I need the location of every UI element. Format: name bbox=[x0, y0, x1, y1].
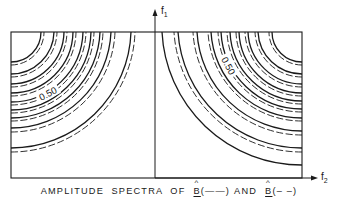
left-contours bbox=[11, 32, 135, 152]
solid-line-legend: (——) bbox=[201, 186, 230, 196]
dashed-line-legend: (– –) bbox=[272, 186, 297, 196]
f1-arrowhead-icon bbox=[153, 9, 158, 16]
right-contours bbox=[162, 32, 302, 165]
caption-prefix: AMPLITUDE SPECTRA OF bbox=[41, 186, 186, 196]
chart-caption: AMPLITUDE SPECTRA OF B (——) AND B (– –) bbox=[0, 186, 338, 196]
caption-and: AND bbox=[234, 186, 257, 196]
f2-arrowhead-icon bbox=[311, 176, 318, 181]
b-hat-symbol-2: B bbox=[265, 186, 272, 196]
b-hat-symbol-1: B bbox=[193, 186, 200, 196]
f1-axis-label: f1 bbox=[161, 5, 168, 18]
contour-plot: 0.50 0.50 bbox=[0, 0, 338, 208]
f2-axis-label: f2 bbox=[321, 171, 328, 184]
plot-frame bbox=[11, 32, 302, 178]
